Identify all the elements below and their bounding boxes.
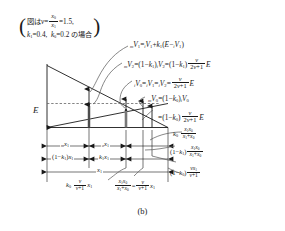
dim-label-row1-right: ox1 <box>101 141 110 148</box>
equation-iV0: iV0=iV1=iV2=ν2ν+1E <box>134 76 194 90</box>
leader-mV1 <box>90 46 128 92</box>
dim-label-right-k0: k0 x1x0x1+x0 <box>173 127 197 141</box>
line-inner-slant <box>47 104 168 128</box>
dim-label-row2-left: (1−k1)x1 <box>51 154 74 161</box>
dim-label-row2-right: k1x1 <box>98 154 110 161</box>
dim-label-right-1mk0: (1−k0)νx1ν+1 <box>170 166 201 179</box>
dim-label-bottom-ratio: x1x0x1+x0=νν+1x1 <box>114 179 155 193</box>
note-line-1: 図はν=x0x1=1.5, <box>27 13 92 29</box>
note-block: ( 図はν=x0x1=1.5, k1=0.4, k0=0.2 の場合 ) <box>19 13 100 39</box>
note-paren-right: ) <box>93 16 100 37</box>
figure-caption: (b) <box>0 206 285 216</box>
dim-label-right-1mk1: (1−k1)x1x0x1+x0 <box>170 145 204 159</box>
figure-diagram-b: ( 図はν=x0x1=1.5, k1=0.4, k0=0.2 の場合 ) mV1… <box>0 0 285 231</box>
equation-mV1: mV1=iV1+k1(E−iV1) <box>130 41 184 50</box>
dim-label-row3-total: x1 <box>96 167 103 174</box>
leader-mV2 <box>93 63 122 104</box>
equation-mV2: mV2=(1−k1)iV2=(1−k1)ν2ν+1E <box>124 57 211 71</box>
dim-label-bottom-k0nu: k0 νν+1x1 <box>66 179 92 192</box>
note-line-2: k1=0.4, k0=0.2 の場合 <box>27 31 92 40</box>
equation-mV0: mV0=(1−k0)iV0 <box>148 95 189 104</box>
point-slant-2 <box>125 109 127 111</box>
dim-label-row1-left: mx1 <box>60 141 70 148</box>
point-slant-1 <box>88 103 90 105</box>
leader-mV0 <box>139 97 145 107</box>
equation-mV0-continued: =(1−k0)ν2ν+1E <box>158 110 204 124</box>
note-paren-left: ( <box>19 16 26 37</box>
label-E: E <box>33 106 39 115</box>
